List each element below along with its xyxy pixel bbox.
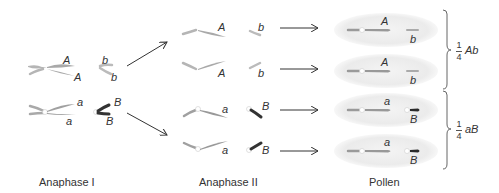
meiosis-diagram: [0, 0, 499, 193]
brace-bottom: [443, 91, 451, 169]
allele-label: a: [384, 96, 390, 107]
allele-label: b: [410, 34, 416, 45]
anaphase1-bottom-small-chromosome: [94, 105, 110, 115]
numerator: 1: [456, 120, 462, 129]
stage-label-anaphase2: Anaphase II: [199, 176, 258, 188]
stage-label-pollen: Pollen: [369, 176, 400, 188]
allele-label: B: [262, 101, 269, 112]
allele-label: A: [63, 55, 70, 66]
stage-label-anaphase1: Anaphase I: [39, 176, 95, 188]
allele-label: b: [111, 72, 117, 83]
allele-label: a: [384, 137, 390, 148]
denominator: 4: [456, 53, 462, 62]
ratio-genotype: Ab: [465, 44, 478, 56]
allele-label: A: [74, 72, 81, 83]
allele-label: A: [381, 57, 388, 68]
ratio-fraction-ab2: 1 4: [456, 120, 462, 141]
allele-label: B: [114, 97, 121, 108]
allele-label: b: [258, 22, 264, 33]
denominator: 4: [456, 132, 462, 141]
allele-label: A: [218, 68, 225, 79]
allele-label: A: [381, 16, 388, 27]
allele-label: a: [222, 104, 228, 115]
allele-label: b: [410, 75, 416, 86]
ratio-genotype: aB: [465, 123, 478, 135]
anaphase1-bottom-large-chromosome: [30, 104, 76, 115]
arrow-down: [127, 113, 167, 135]
numerator: 1: [456, 41, 462, 50]
brace-top: [443, 10, 451, 89]
allele-label: B: [410, 114, 417, 125]
allele-label: A: [218, 22, 225, 33]
ratio-fraction-ab: 1 4: [456, 41, 462, 62]
allele-label: b: [258, 68, 264, 79]
arrows-to-pollen: [280, 28, 318, 151]
arrow-up: [127, 42, 167, 66]
allele-label: B: [410, 155, 417, 166]
allele-label: a: [66, 116, 72, 127]
allele-label: B: [106, 116, 113, 127]
allele-label: B: [262, 145, 269, 156]
allele-label: a: [222, 145, 228, 156]
allele-label: a: [77, 97, 83, 108]
allele-label: b: [102, 55, 108, 66]
